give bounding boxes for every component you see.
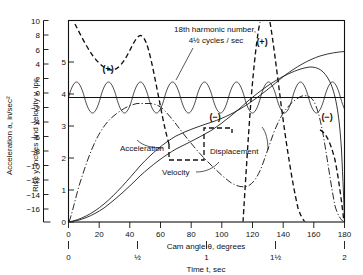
leader-displacement	[262, 127, 268, 150]
time-tick-label: ½	[134, 253, 141, 262]
time-tick-label: 1½	[270, 253, 281, 262]
figure-root: 10 8 6 4 2 0 −2 −4 −6 −8 −10 −12 −14 −16…	[0, 0, 363, 275]
leader-velocity	[196, 162, 219, 172]
leader-harmonic	[176, 48, 193, 80]
cam-tick-label: 160	[307, 230, 321, 239]
cam-dynamics-chart: 10 8 6 4 2 0 −2 −4 −6 −8 −10 −12 −14 −16…	[0, 0, 363, 275]
curve-envelope-positive-right-b	[270, 22, 310, 226]
plot-frame	[69, 21, 345, 223]
time-tick-label: 0	[66, 253, 71, 262]
accel-tick-label: 8	[36, 31, 41, 40]
cam-tick-label: 0	[66, 230, 71, 239]
annotation-plus-right: (+)	[256, 37, 267, 47]
time-tick-label: 1	[204, 253, 209, 262]
rise-tick-label: 1	[62, 186, 67, 195]
label-velocity: Velocity	[162, 168, 190, 177]
curve-displacement	[69, 52, 345, 223]
accel-tick-label: 6	[36, 46, 41, 55]
left-axis-title: Acceleration a, in/sec²	[5, 96, 14, 175]
annotation-harmonic-line2: 4½ cycles / sec	[189, 36, 244, 45]
inner-rise-ticks	[69, 62, 75, 222]
bottom-cam-angle-ticks	[69, 222, 345, 228]
inner-rise-tick-labels: 5 4 3 2 1 0	[62, 58, 67, 227]
rise-tick-label: 2	[62, 154, 67, 163]
cam-tick-label: 80	[187, 230, 196, 239]
annotation-harmonic-line1: 18th harmonic number,	[174, 25, 256, 34]
time-tick-label: 2	[342, 253, 347, 262]
accel-tick-label: 10	[31, 17, 40, 26]
annotation-plus-left: (+)	[102, 64, 113, 74]
time-axis-ticks	[69, 241, 345, 249]
bottom-cam-angle-tick-labels: 0 20 40 60 80 100 120 140 160 180	[66, 230, 351, 239]
label-displacement: Displacement	[210, 147, 259, 156]
cam-tick-label: 120	[246, 230, 260, 239]
curve-envelope-negative-right	[320, 130, 344, 222]
inner-axis-title: Rise y, inches and velocity v, ips	[31, 78, 40, 192]
left-accel-ticks	[44, 21, 51, 223]
curve-envelope-positive-left	[75, 24, 169, 144]
cam-tick-label: 140	[277, 230, 291, 239]
cam-tick-label: 180	[338, 230, 352, 239]
cam-tick-label: 40	[125, 230, 134, 239]
curve-envelope-positive-right	[243, 22, 260, 222]
rise-tick-label: 4	[62, 90, 67, 99]
annotation-minus-middle: (−)	[209, 112, 220, 122]
time-axis-title: Time t, sec	[187, 265, 226, 274]
accel-tick-label: 4	[36, 60, 41, 69]
cam-tick-label: 20	[95, 230, 104, 239]
annotation-minus-right: (−)	[321, 112, 332, 122]
rise-tick-label: 0	[62, 218, 67, 227]
time-axis-tick-labels: 0 ½ 1 1½ 2	[66, 253, 347, 262]
cam-tick-label: 60	[156, 230, 165, 239]
rise-tick-label: 5	[62, 58, 67, 67]
label-acceleration: Acceleration	[120, 144, 164, 153]
accel-tick-label: −16	[26, 205, 40, 214]
bottom-axis-title: Cam angle θ, degrees	[167, 242, 246, 251]
rise-tick-label: 3	[62, 122, 67, 131]
cam-tick-label: 100	[215, 230, 229, 239]
